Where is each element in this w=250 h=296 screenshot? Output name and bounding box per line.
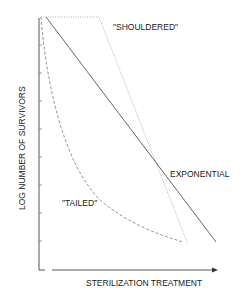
shouldered-curve bbox=[41, 17, 187, 242]
exponential-curve bbox=[46, 17, 216, 242]
tailed-curve bbox=[41, 17, 183, 242]
x-axis-arrow-icon bbox=[212, 268, 218, 273]
y-axis-label: LOG NUMBER OF SURVIVORS bbox=[17, 86, 27, 210]
shouldered-label: "SHOULDERED" bbox=[113, 22, 178, 32]
survival-curves-chart: "SHOULDERED" EXPONENTIAL "TAILED" STERIL… bbox=[0, 0, 250, 296]
x-axis-label: STERILIZATION TREATMENT bbox=[86, 278, 202, 288]
exponential-label: EXPONENTIAL bbox=[170, 169, 230, 179]
tailed-label: "TAILED" bbox=[62, 198, 97, 208]
